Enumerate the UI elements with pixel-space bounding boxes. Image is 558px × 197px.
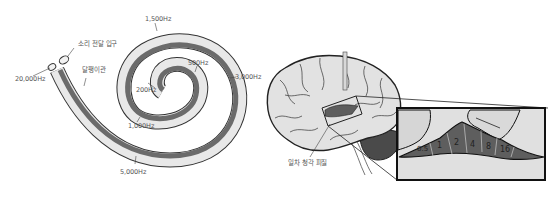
label-primary-auditory-cortex: 일차 청각 피질: [288, 160, 327, 167]
diagram-canvas: [0, 0, 558, 197]
band-label: 1: [437, 142, 442, 150]
label-freq-20000: 20,000Hz: [15, 76, 45, 83]
label-freq-1000: 1,000Hz: [128, 123, 154, 130]
label-freq-1500: 1,500Hz: [145, 16, 171, 23]
auditory-diagram: 소리 전달 입구 달팽이관 20,000Hz 1,500Hz 500Hz 200…: [0, 0, 558, 197]
band-label: 2: [454, 139, 459, 147]
label-freq-500: 500Hz: [188, 60, 208, 67]
label-freq-3000: 3,000Hz: [235, 74, 261, 81]
label-sound-entrance: 소리 전달 입구: [78, 41, 117, 48]
band-label: 0.5: [417, 146, 428, 153]
label-freq-5000: 5,000Hz: [120, 169, 146, 176]
label-freq-200: 200Hz: [136, 87, 156, 94]
label-cochlear-duct: 달팽이관: [82, 67, 106, 74]
band-label: 8: [486, 143, 491, 151]
band-label: 16: [500, 146, 510, 154]
band-label: 4: [470, 141, 475, 149]
